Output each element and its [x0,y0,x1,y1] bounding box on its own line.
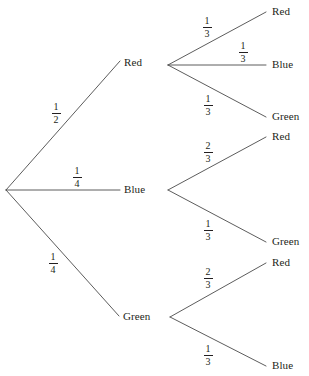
probability-label-root-to-red: 1 2 [47,102,65,125]
node-label-level2-blue-red: Red [272,131,290,142]
node-label-level1-red: Red [124,57,142,68]
fraction-numerator: 1 [199,219,217,230]
node-label-level2-red-blue: Blue [272,59,293,70]
probability-label-blue-to-red: 2 3 [199,141,217,164]
probability-label-root-to-green: 1 4 [44,252,62,275]
fraction-numerator: 1 [199,344,217,355]
fraction-denominator: 3 [199,107,217,118]
probability-label-green-to-blue: 1 3 [199,344,217,367]
branch-green-to-red [170,263,266,317]
node-label-level2-blue-green: Green [272,236,299,247]
fraction-denominator: 3 [199,357,217,368]
fraction-numerator: 2 [199,267,217,278]
probability-label-red-to-green: 1 3 [199,94,217,117]
branch-blue-to-red [168,137,266,190]
branch-root-to-green [6,190,119,316]
probability-label-red-to-blue: 1 3 [234,41,252,64]
branch-green-to-blue [170,317,266,366]
fraction-numerator: 2 [199,141,217,152]
probability-label-root-to-blue: 1 4 [68,166,86,189]
fraction-numerator: 1 [199,94,217,105]
fraction-numerator: 1 [68,166,86,177]
node-label-level2-green-blue: Blue [272,360,293,371]
fraction-denominator: 3 [199,280,217,291]
node-label-level2-red-green: Green [272,111,299,122]
fraction-denominator: 4 [44,265,62,276]
node-label-level2-red-red: Red [272,6,290,17]
fraction-denominator: 3 [199,154,217,165]
fraction-numerator: 1 [44,252,62,263]
probability-label-red-to-red: 1 3 [198,16,216,39]
branch-root-to-red [6,61,120,190]
branch-red-to-green [168,65,266,117]
fraction-numerator: 1 [47,102,65,113]
branch-blue-to-green [168,190,266,242]
probability-label-green-to-red: 2 3 [199,267,217,290]
node-label-level2-green-red: Red [272,257,290,268]
fraction-denominator: 3 [198,29,216,40]
fraction-numerator: 1 [234,41,252,52]
node-label-level1-green: Green [123,311,150,322]
fraction-denominator: 3 [199,232,217,243]
probability-tree-diagram: Red Blue Green Red Blue Green Red Green … [0,0,309,376]
fraction-denominator: 4 [68,179,86,190]
fraction-numerator: 1 [198,16,216,27]
tree-branches-svg [0,0,309,376]
node-label-level1-blue: Blue [124,184,145,195]
probability-label-blue-to-green: 1 3 [199,219,217,242]
fraction-denominator: 3 [234,54,252,65]
fraction-denominator: 2 [47,115,65,126]
